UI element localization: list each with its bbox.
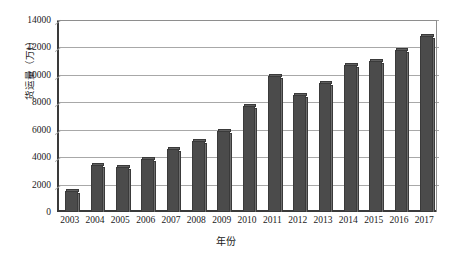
- bar: [141, 159, 154, 212]
- bar-front-face: [268, 76, 281, 212]
- bar: [192, 141, 205, 212]
- x-axis-tick-label: 2007: [162, 215, 181, 225]
- bar-front-face: [369, 61, 382, 212]
- bar-front-face: [344, 65, 357, 212]
- y-axis-tick-label: 4000: [32, 152, 51, 162]
- bar: [116, 167, 129, 212]
- plot-area: [57, 20, 437, 212]
- bar: [395, 50, 408, 212]
- bar: [344, 65, 357, 212]
- y-axis-tick-label: 6000: [32, 125, 51, 135]
- bar-front-face: [192, 141, 205, 212]
- bar-front-face: [395, 50, 408, 212]
- bar-front-face: [217, 131, 230, 212]
- chart-figure: 货运量（万t） 02000400060008000100001200014000…: [0, 0, 452, 259]
- y-axis-tick-label: 12000: [27, 42, 51, 52]
- bar: [167, 149, 180, 212]
- bar: [91, 165, 104, 212]
- x-axis-tick-label: 2009: [212, 215, 231, 225]
- bar: [369, 61, 382, 212]
- y-axis-tick-label: 2000: [32, 180, 51, 190]
- y-axis-tick-label: 10000: [27, 70, 51, 80]
- x-axis-tick-label: 2006: [136, 215, 155, 225]
- bar-front-face: [293, 95, 306, 212]
- bar: [243, 106, 256, 212]
- bar: [268, 76, 281, 212]
- x-axis-tick-label: 2003: [60, 215, 79, 225]
- x-axis-tick-label: 2012: [288, 215, 307, 225]
- bar: [319, 83, 332, 212]
- x-axis-tick-label: 2013: [314, 215, 333, 225]
- x-axis-title: 年份: [0, 233, 452, 248]
- bar-front-face: [91, 165, 104, 212]
- x-axis-tick-label: 2016: [390, 215, 409, 225]
- y-axis-tick-label: 8000: [32, 97, 51, 107]
- bar: [293, 95, 306, 212]
- x-axis-tick-label: 2015: [364, 215, 383, 225]
- bar-front-face: [116, 167, 129, 212]
- bar-series: [59, 20, 439, 212]
- bar-front-face: [319, 83, 332, 212]
- x-axis-tick-label: 2004: [86, 215, 105, 225]
- bar-front-face: [167, 149, 180, 212]
- x-axis-tick-label: 2008: [187, 215, 206, 225]
- bar-front-face: [420, 36, 433, 212]
- x-axis-tick-label: 2014: [339, 215, 358, 225]
- bar: [217, 131, 230, 212]
- y-axis-tick-label: 14000: [27, 15, 51, 25]
- y-axis-tick-label: 0: [46, 207, 51, 217]
- x-axis-tick-label: 2011: [263, 215, 282, 225]
- x-axis-tick-label: 2017: [415, 215, 434, 225]
- x-axis-tick-label: 2010: [238, 215, 257, 225]
- bar-front-face: [65, 191, 78, 212]
- y-axis-tick-labels: 02000400060008000100001200014000: [0, 0, 54, 259]
- bar: [420, 36, 433, 212]
- x-axis-tick-labels: 2003200420052006200720082009201020112012…: [57, 215, 437, 231]
- x-axis-tick-label: 2005: [111, 215, 130, 225]
- bar-front-face: [141, 159, 154, 212]
- bar: [65, 191, 78, 212]
- bar-front-face: [243, 106, 256, 212]
